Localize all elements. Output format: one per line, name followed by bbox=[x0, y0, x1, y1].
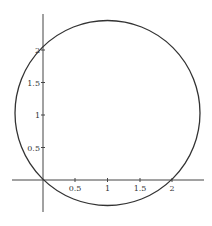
x-tick-label: 0.5 bbox=[69, 184, 82, 193]
y-tick-label: 0.5 bbox=[27, 144, 40, 153]
x-tick-label: 1 bbox=[105, 184, 110, 193]
y-tick-label: 1 bbox=[35, 111, 40, 120]
y-tick-label: 1.5 bbox=[27, 79, 40, 88]
x-tick-label: 1.5 bbox=[134, 184, 147, 193]
x-tick-label: 2 bbox=[169, 184, 174, 193]
circle-plot: 0.5 1 1.5 2 0.5 1 1.5 2 bbox=[0, 0, 212, 226]
